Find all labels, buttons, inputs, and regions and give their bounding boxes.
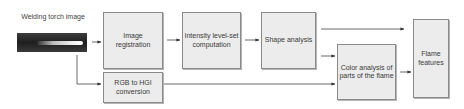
node-shape-analysis: Shape analysis bbox=[261, 12, 316, 69]
node-color-analysis: Color analysis of parts of the flame bbox=[337, 44, 396, 100]
node-image-registration: Image registration bbox=[103, 12, 163, 69]
node-label: Intensity level-set computation bbox=[184, 32, 239, 49]
node-intensity-level-set: Intensity level-set computation bbox=[182, 12, 241, 69]
node-label: Image registration bbox=[105, 32, 161, 49]
node-label: Shape analysis bbox=[265, 36, 312, 45]
node-label: Flame features bbox=[415, 50, 447, 67]
node-label: Color analysis of parts of the flame bbox=[339, 64, 394, 81]
node-label: RGB to HGI conversion bbox=[105, 79, 161, 96]
node-rgb-to-hgi: RGB to HGI conversion bbox=[103, 72, 163, 103]
node-flame-features: Flame features bbox=[413, 19, 449, 98]
